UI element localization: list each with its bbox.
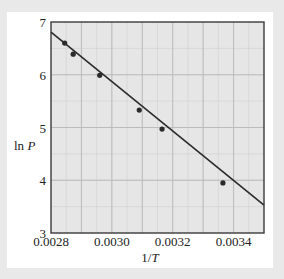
data-point	[220, 180, 225, 185]
data-point	[97, 73, 102, 78]
x-tick-label: 0.0032	[155, 234, 191, 249]
data-point	[71, 52, 76, 57]
y-axis-tick-labels: 34567	[40, 15, 47, 241]
x-tick-label: 0.0028	[33, 234, 69, 249]
data-point	[62, 41, 67, 46]
x-axis-label-var: T	[151, 250, 159, 265]
y-tick-label: 6	[40, 68, 47, 83]
x-tick-label: 0.0034	[216, 234, 252, 249]
x-axis-label-numerator: 1/	[141, 250, 152, 265]
y-tick-label: 3	[40, 226, 47, 241]
y-axis-label: ln P	[14, 138, 35, 153]
data-point	[137, 107, 142, 112]
x-tick-label: 0.0030	[94, 234, 130, 249]
x-axis-tick-labels: 0.00280.00300.00320.0034	[33, 234, 252, 249]
x-axis-label: 1/T	[141, 250, 159, 265]
y-tick-label: 4	[40, 173, 47, 188]
y-axis-label-fn: ln	[14, 138, 27, 153]
y-tick-label: 5	[40, 121, 47, 136]
data-point	[159, 126, 164, 131]
chart: 0.00280.00300.00320.0034 34567 1/T ln P	[0, 0, 284, 279]
y-tick-label: 7	[40, 15, 47, 30]
y-axis-label-var: P	[26, 138, 35, 153]
